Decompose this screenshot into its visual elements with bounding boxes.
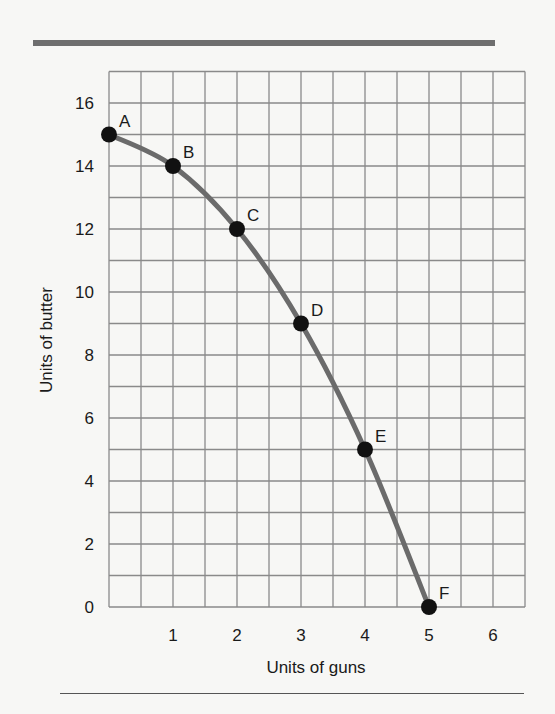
y-tick-label: 8 — [85, 346, 94, 365]
x-axis-label: Units of guns — [266, 658, 365, 677]
data-point-a — [101, 127, 117, 143]
data-point-c — [229, 221, 245, 237]
grid — [109, 72, 525, 608]
y-tick-label: 10 — [75, 283, 94, 302]
point-label-f: F — [439, 584, 449, 603]
x-tick-label: 2 — [232, 626, 241, 645]
y-tick-label: 0 — [85, 598, 94, 617]
point-label-e: E — [375, 427, 386, 446]
ppf-chart: 0246810121416 123456 ABCDEF Units of but… — [0, 0, 555, 714]
x-tick-label: 5 — [424, 626, 433, 645]
data-point-d — [293, 316, 309, 332]
x-axis-ticks: 123456 — [168, 626, 497, 645]
y-axis-ticks: 0246810121416 — [75, 94, 94, 617]
point-label-a: A — [119, 112, 131, 131]
data-point-f — [421, 599, 437, 615]
x-tick-label: 4 — [360, 626, 369, 645]
x-tick-label: 6 — [488, 626, 497, 645]
y-tick-label: 4 — [85, 472, 94, 491]
x-tick-label: 3 — [296, 626, 305, 645]
point-label-d: D — [311, 301, 323, 320]
bottom-rule — [60, 693, 524, 694]
x-tick-label: 1 — [168, 626, 177, 645]
y-tick-label: 14 — [75, 157, 94, 176]
y-tick-label: 2 — [85, 535, 94, 554]
point-label-b: B — [183, 143, 194, 162]
y-axis-label: Units of butter — [37, 287, 56, 393]
point-label-c: C — [247, 206, 259, 225]
y-tick-label: 12 — [75, 220, 94, 239]
data-point-b — [165, 158, 181, 174]
y-tick-label: 6 — [85, 409, 94, 428]
data-point-e — [357, 442, 373, 458]
y-tick-label: 16 — [75, 94, 94, 113]
